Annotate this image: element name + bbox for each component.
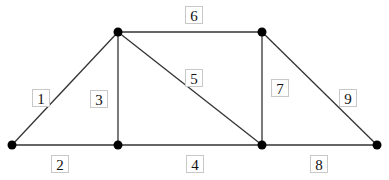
label-member-5: 5 bbox=[185, 69, 203, 87]
truss-diagram: 1 2 3 4 5 6 7 8 9 bbox=[0, 0, 389, 180]
node-f bbox=[373, 141, 382, 150]
node-c bbox=[114, 141, 123, 150]
node-b bbox=[114, 28, 123, 37]
label-member-6: 6 bbox=[185, 6, 203, 24]
member-1 bbox=[12, 32, 118, 145]
label-member-9: 9 bbox=[339, 89, 357, 107]
label-member-3: 3 bbox=[90, 90, 108, 108]
label-member-7: 7 bbox=[271, 79, 289, 97]
label-member-8: 8 bbox=[310, 155, 328, 173]
member-5 bbox=[118, 32, 262, 145]
node-e bbox=[258, 141, 267, 150]
node-a bbox=[8, 141, 17, 150]
truss-graphic bbox=[0, 0, 389, 180]
label-member-1: 1 bbox=[32, 89, 50, 107]
node-d bbox=[258, 28, 267, 37]
label-member-2: 2 bbox=[51, 155, 69, 173]
label-member-4: 4 bbox=[186, 155, 204, 173]
